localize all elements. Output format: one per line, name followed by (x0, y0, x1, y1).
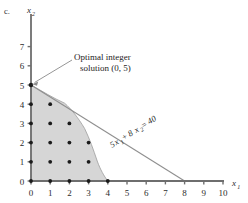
y-tick-label-0: 0 (20, 177, 25, 187)
lattice-point (68, 141, 72, 145)
lattice-point (29, 122, 33, 126)
y-tick-label-6: 6 (20, 61, 25, 71)
optimal-solution-annotation: Optimal integer solution (0, 5) (74, 52, 131, 73)
x-tick-label-3: 3 (86, 188, 91, 198)
constraint-line-label: 5 x 1 + 8 x 2 = 40 (108, 113, 159, 151)
optimal-solution-point (29, 83, 33, 87)
x-tick-label-2: 2 (67, 188, 72, 198)
x-tick-label-9: 9 (202, 188, 207, 198)
x-tick-label-8: 8 (182, 188, 187, 198)
x-axis-label-sub: 1 (237, 184, 240, 190)
lattice-point (29, 141, 33, 145)
lattice-point (48, 179, 52, 183)
x-axis-label: x 1 (231, 178, 240, 190)
lattice-point (48, 141, 52, 145)
constraint-label-suffix: = 40 (139, 113, 159, 131)
x-tick-label-10: 10 (219, 188, 229, 198)
optimal-annotation-line2: solution (0, 5) (80, 63, 131, 73)
optimal-annotation-line1: Optimal integer (74, 52, 131, 62)
x-axis-tick-labels: 0 1 2 3 4 5 6 7 8 9 10 (29, 188, 228, 198)
lattice-point (87, 179, 91, 183)
x-tick-label-1: 1 (48, 188, 53, 198)
feasible-region-shape (31, 85, 108, 181)
x-tick-label-7: 7 (163, 188, 168, 198)
figure-container: 0 1 2 3 4 5 6 7 0 1 2 3 4 5 6 7 8 9 10 (0, 0, 248, 203)
part-label: c. (4, 6, 10, 16)
x-tick-label-0: 0 (29, 188, 34, 198)
y-tick-label-7: 7 (20, 42, 25, 52)
lattice-point (68, 122, 72, 126)
lattice-point (68, 160, 72, 164)
y-axis-label: x 2 (26, 5, 35, 17)
x-axis-label-var: x (231, 178, 236, 188)
x-tick-label-4: 4 (106, 188, 111, 198)
lattice-point (87, 141, 91, 145)
annotation-leader (32, 60, 72, 86)
y-axis-label-var: x (26, 5, 31, 15)
y-tick-label-4: 4 (20, 100, 25, 110)
y-tick-label-5: 5 (20, 81, 25, 91)
lattice-point (106, 179, 110, 183)
lattice-point (29, 160, 33, 164)
x-tick-label-6: 6 (144, 188, 149, 198)
y-tick-label-1: 1 (20, 157, 25, 167)
leader-line (35, 60, 73, 83)
integer-programming-plot: 0 1 2 3 4 5 6 7 0 1 2 3 4 5 6 7 8 9 10 (0, 0, 248, 203)
lattice-point (68, 179, 72, 183)
y-tick-label-3: 3 (20, 119, 25, 129)
lattice-point (48, 122, 52, 126)
lattice-point (48, 102, 52, 106)
x-tick-label-5: 5 (125, 188, 130, 198)
y-axis-tick-labels: 0 1 2 3 4 5 6 7 (20, 42, 25, 186)
y-axis-label-sub: 2 (32, 11, 35, 17)
lattice-point (48, 160, 52, 164)
y-tick-label-2: 2 (20, 138, 25, 148)
lattice-point (87, 160, 91, 164)
lattice-point (29, 179, 33, 183)
feasible-region (31, 85, 108, 181)
lattice-point (29, 102, 33, 106)
